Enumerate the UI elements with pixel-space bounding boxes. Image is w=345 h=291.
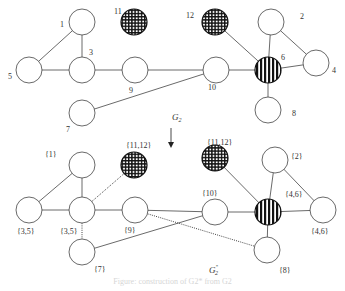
top-node-1 xyxy=(69,9,95,35)
top-node-label: 12 xyxy=(186,11,194,20)
top-node-10 xyxy=(203,57,229,83)
bottom-node-b4 xyxy=(310,197,336,223)
top-node-9 xyxy=(122,57,148,83)
bottom-node-label: {11,12} xyxy=(207,138,233,147)
bottom-node-label: {8} xyxy=(279,266,291,275)
bottom-graph-label: G*2 xyxy=(209,264,219,276)
bottom-node-b6 xyxy=(255,199,281,225)
top-node-label: 4 xyxy=(332,66,336,75)
bottom-node-b5 xyxy=(16,197,42,223)
top-node-label: 9 xyxy=(129,86,133,95)
bottom-node-label: {3,5} xyxy=(17,227,35,236)
bottom-node-b12 xyxy=(202,145,228,171)
top-node-label: 5 xyxy=(8,72,12,81)
bottom-node-b8 xyxy=(254,237,280,263)
bottom-node-label: {10} xyxy=(202,189,218,198)
top-node-label: 11 xyxy=(114,7,122,16)
bottom-node-b1 xyxy=(69,152,95,178)
bottom-node-label: {9} xyxy=(124,226,136,235)
top-node-label: 10 xyxy=(208,83,216,92)
bottom-node-b7 xyxy=(69,239,95,265)
bottom-edge-solid xyxy=(82,212,215,252)
top-node-11 xyxy=(121,9,147,35)
bottom-node-label: {1} xyxy=(45,150,57,159)
graph-canvas: 111122539106487{1}{11,12}{11,12}{2}{3,5}… xyxy=(0,0,345,291)
bottom-node-b10 xyxy=(202,199,228,225)
top-node-5 xyxy=(16,57,42,83)
top-node-6 xyxy=(255,57,281,83)
top-node-2 xyxy=(258,9,284,35)
top-node-8 xyxy=(255,97,281,123)
top-graph-label: G2 xyxy=(172,112,182,123)
top-node-label: 8 xyxy=(292,109,296,118)
bottom-node-label: {7} xyxy=(94,265,106,274)
bottom-node-b9 xyxy=(122,197,148,223)
labels-layer: 111122539106487{1}{11,12}{11,12}{2}{3,5}… xyxy=(8,7,336,275)
top-node-label: 7 xyxy=(66,125,70,134)
graph-figure: 111122539106487{1}{11,12}{11,12}{2}{3,5}… xyxy=(0,0,345,291)
bottom-node-label: {11,12} xyxy=(126,141,152,150)
bottom-node-b2 xyxy=(262,147,288,173)
figure-caption: Figure: construction of G2* from G2 xyxy=(0,277,345,286)
top-node-12 xyxy=(202,9,228,35)
bottom-node-b11 xyxy=(121,152,147,178)
arrow-head-icon xyxy=(168,142,174,148)
bottom-node-b3 xyxy=(69,197,95,223)
top-node-4 xyxy=(303,50,329,76)
top-node-7 xyxy=(69,100,95,126)
top-node-3 xyxy=(69,57,95,83)
top-node-label: 6 xyxy=(281,53,285,62)
bottom-node-label: {4,6} xyxy=(311,227,329,236)
top-edge-solid xyxy=(82,70,216,113)
transform-arrow xyxy=(168,128,174,148)
bottom-node-label: {2} xyxy=(291,152,303,161)
bottom-node-label: {3,5} xyxy=(60,227,78,236)
bottom-node-label: {4,6} xyxy=(285,190,303,199)
top-node-label: 3 xyxy=(89,48,93,57)
top-node-label: 2 xyxy=(300,12,304,21)
top-node-label: 1 xyxy=(60,20,64,29)
